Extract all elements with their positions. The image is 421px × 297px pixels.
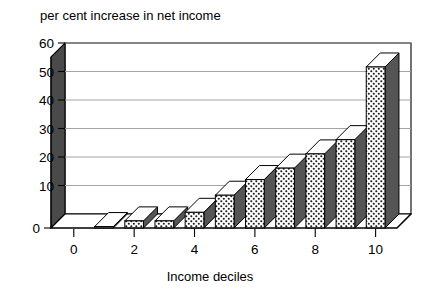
bar-chart: per cent increase in net income 01020304… [0, 0, 421, 297]
x-tick-label-6: 6 [251, 242, 259, 257]
bar-decile-6 [246, 166, 279, 228]
y-tick-label-50: 50 [39, 65, 54, 80]
bar-front-face [336, 140, 355, 228]
y-tick-label-60: 60 [39, 36, 54, 51]
x-tick-label-0: 0 [70, 242, 78, 257]
bar-decile-9 [336, 126, 369, 228]
bar-front-face [276, 168, 295, 228]
bar-front-face [366, 67, 385, 228]
x-tick-label-8: 8 [311, 242, 319, 257]
bar-decile-8 [306, 140, 339, 228]
x-tick-label-10: 10 [368, 242, 383, 257]
bar-decile-10 [366, 53, 399, 228]
y-tick-label-40: 40 [39, 93, 54, 108]
bar-front-face [246, 180, 265, 228]
bar-side-face [385, 53, 399, 228]
bar-front-face [125, 221, 144, 228]
y-tick-label-20: 20 [39, 150, 54, 165]
y-tick-label-0: 0 [32, 221, 40, 236]
y-tick-label-30: 30 [39, 122, 54, 137]
chart-title: per cent increase in net income [40, 8, 221, 23]
bar-front-face [306, 154, 325, 228]
bar-decile-7 [276, 154, 309, 228]
bar-front-face [155, 221, 174, 228]
chart-container: per cent increase in net income 01020304… [0, 0, 421, 297]
x-tick-label-4: 4 [191, 242, 199, 257]
bar-front-face [185, 212, 204, 228]
y-tick-label-10: 10 [39, 179, 54, 194]
bar-front-face [215, 195, 234, 228]
x-tick-label-2: 2 [130, 242, 138, 257]
x-axis-title: Income deciles [167, 269, 254, 284]
